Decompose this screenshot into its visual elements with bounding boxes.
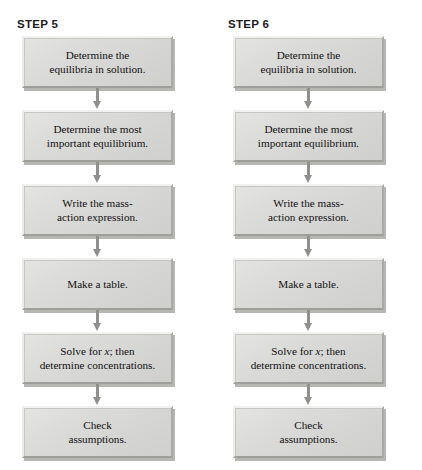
arrow-head-icon — [93, 397, 101, 405]
flow-arrow — [22, 88, 173, 110]
flowchart-figure: STEP 5 Determine the equilibria in solut… — [0, 0, 422, 470]
flow-node: Write the mass- action expression. — [233, 184, 384, 236]
flow-node-text: Make a table. — [272, 277, 345, 291]
flow-node-line-1: Determine the — [66, 49, 130, 61]
flow-node-line-2: action expression. — [268, 211, 349, 223]
flow-node-text: Write the mass- action expression. — [51, 196, 144, 224]
flow-node-line-1: Determine the most — [264, 123, 352, 135]
flow-node: Solve for x; then determine concentratio… — [233, 332, 384, 384]
flow-node-line-1: Check — [294, 419, 323, 431]
arrow-head-icon — [304, 397, 312, 405]
flow-node-line-1-text: Solve for x; then — [60, 345, 134, 357]
flow-node-text: Determine the equilibria in solution. — [43, 48, 151, 76]
flow-node-text: Check assumptions. — [273, 418, 343, 446]
arrow-head-icon — [93, 323, 101, 331]
node-chain-step-5: Determine the equilibria in solution. De… — [22, 36, 173, 458]
flow-node: Make a table. — [233, 258, 384, 310]
flow-node-line-2: important equilibrium. — [47, 137, 148, 149]
flow-node-line-2: determine concentrations. — [251, 359, 367, 371]
flow-node-line-2: action expression. — [57, 211, 138, 223]
arrow-head-icon — [304, 175, 312, 183]
flow-node-line-2: assumptions. — [279, 433, 337, 445]
flow-node-line-1: Solve for x; then — [271, 345, 345, 357]
flow-node-line-2: important equilibrium. — [258, 137, 359, 149]
flow-node: Solve for x; then determine concentratio… — [22, 332, 173, 384]
arrow-head-icon — [304, 323, 312, 331]
flow-node: Check assumptions. — [233, 406, 384, 458]
flow-node-text: Check assumptions. — [62, 418, 132, 446]
flow-arrow — [233, 162, 384, 184]
flow-node-line-2: equilibria in solution. — [260, 63, 356, 75]
flow-node-line-1: Make a table. — [278, 278, 339, 290]
flow-node-line-1: Solve for x; then — [60, 345, 134, 357]
flow-node-line-1: Determine the most — [53, 123, 141, 135]
flowchart-column-step-6: STEP 6 Determine the equilibria in solut… — [211, 0, 422, 470]
flow-node-line-1: Make a table. — [67, 278, 128, 290]
flow-node-line-1: Determine the — [277, 49, 341, 61]
flow-node-line-1: Check — [83, 419, 112, 431]
flow-node: Write the mass- action expression. — [22, 184, 173, 236]
flow-node-line-1: Write the mass- — [62, 197, 132, 209]
flowchart-column-step-5: STEP 5 Determine the equilibria in solut… — [0, 0, 211, 470]
flow-node: Make a table. — [22, 258, 173, 310]
step-label-6: STEP 6 — [228, 18, 269, 30]
flow-node-line-2: assumptions. — [68, 433, 126, 445]
arrow-head-icon — [304, 101, 312, 109]
flow-arrow — [233, 310, 384, 332]
flow-arrow — [233, 384, 384, 406]
flow-node-line-1-text: Solve for x; then — [271, 345, 345, 357]
flow-node-text: Make a table. — [61, 277, 134, 291]
arrow-head-icon — [304, 249, 312, 257]
step-label-5: STEP 5 — [17, 18, 58, 30]
flow-node: Determine the equilibria in solution. — [233, 36, 384, 88]
flow-arrow — [22, 384, 173, 406]
flow-arrow — [233, 88, 384, 110]
flow-node: Determine the equilibria in solution. — [22, 36, 173, 88]
flow-node-text: Determine the equilibria in solution. — [254, 48, 362, 76]
flow-node-text: Determine the most important equilibrium… — [252, 122, 365, 150]
node-chain-step-6: Determine the equilibria in solution. De… — [233, 36, 384, 458]
flow-node: Determine the most important equilibrium… — [233, 110, 384, 162]
flow-node-line-2: equilibria in solution. — [49, 63, 145, 75]
flow-node-line-2: determine concentrations. — [40, 359, 156, 371]
flow-node-text: Write the mass- action expression. — [262, 196, 355, 224]
arrow-head-icon — [93, 249, 101, 257]
arrow-head-icon — [93, 175, 101, 183]
flow-node-text: Determine the most important equilibrium… — [41, 122, 154, 150]
flow-arrow — [233, 236, 384, 258]
flow-arrow — [22, 310, 173, 332]
flow-node-text: Solve for x; then determine concentratio… — [34, 344, 162, 372]
flow-arrow — [22, 162, 173, 184]
flow-node: Determine the most important equilibrium… — [22, 110, 173, 162]
flow-node-line-1: Write the mass- — [273, 197, 343, 209]
flow-node-text: Solve for x; then determine concentratio… — [245, 344, 373, 372]
flow-node: Check assumptions. — [22, 406, 173, 458]
flow-arrow — [22, 236, 173, 258]
arrow-head-icon — [93, 101, 101, 109]
